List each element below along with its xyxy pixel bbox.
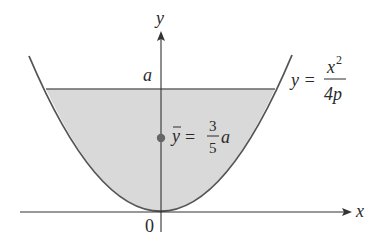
curve-equation: y = x 2 4p [289, 53, 346, 104]
svg-text:3: 3 [209, 118, 217, 134]
svg-text:4p: 4p [324, 84, 342, 104]
centroid-dot [157, 134, 165, 142]
svg-text:a: a [221, 127, 230, 147]
svg-text:y: y [170, 126, 180, 146]
svg-text:x: x [326, 57, 335, 77]
svg-text:5: 5 [209, 140, 217, 156]
svg-text:y =: y = [289, 70, 316, 90]
svg-text:=: = [185, 127, 195, 147]
svg-text:2: 2 [336, 53, 342, 67]
parabola-centroid-figure: y x 0 a y = x 2 4p y = 3 5 a [0, 0, 380, 243]
origin-label: 0 [145, 216, 154, 236]
level-a-label: a [143, 65, 152, 85]
y-axis-label: y [154, 8, 164, 28]
x-axis-label: x [355, 201, 364, 221]
